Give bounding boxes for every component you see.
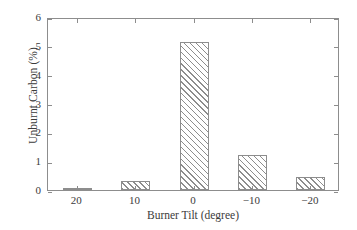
y-tick-mark — [48, 163, 52, 164]
y-tick-mark — [48, 134, 52, 135]
y-tick-label: 2 — [26, 127, 41, 138]
y-tick-mark — [48, 192, 52, 193]
x-axis-title: Burner Tilt (degree) — [47, 209, 339, 221]
x-tick-mark — [77, 186, 78, 190]
x-tick-label: 10 — [129, 194, 140, 207]
y-tick-mark-right — [334, 192, 338, 193]
y-tick-mark-right — [334, 47, 338, 48]
x-tick-label: 0 — [190, 194, 196, 207]
x-tick-label: 20 — [71, 194, 82, 207]
y-tick-mark — [48, 105, 52, 106]
y-tick-mark — [48, 47, 52, 48]
y-tick-label: 4 — [26, 70, 41, 81]
y-tick-mark — [48, 19, 52, 20]
x-tick-mark-top — [252, 19, 253, 23]
x-tick-mark — [310, 186, 311, 190]
y-tick-label: 1 — [26, 156, 41, 167]
y-tick-label: 3 — [26, 99, 41, 110]
y-tick-label: 5 — [26, 41, 41, 52]
x-tick-label: −10 — [243, 194, 260, 207]
y-tick-mark — [48, 76, 52, 77]
y-tick-mark-right — [334, 163, 338, 164]
x-tick-mark — [194, 186, 195, 190]
y-tick-label: 0 — [26, 185, 41, 196]
y-tick-mark-right — [334, 105, 338, 106]
bar — [180, 42, 209, 190]
x-tick-mark — [252, 186, 253, 190]
x-axis-tick-labels: 20100−10−20 — [47, 194, 339, 210]
x-tick-mark-top — [77, 19, 78, 23]
y-tick-mark-right — [334, 134, 338, 135]
chart-figure: Unburnt Carbon (%) 0123456 20100−10−20 B… — [0, 0, 357, 230]
bar — [238, 155, 267, 190]
y-tick-label: 6 — [26, 12, 41, 23]
y-axis-tick-labels: 0123456 — [26, 0, 41, 230]
x-tick-mark-top — [310, 19, 311, 23]
x-tick-mark-top — [135, 19, 136, 23]
plot-area — [47, 18, 339, 191]
x-tick-mark-top — [194, 19, 195, 23]
y-tick-mark-right — [334, 76, 338, 77]
x-tick-mark — [135, 186, 136, 190]
y-tick-mark-right — [334, 19, 338, 20]
x-tick-label: −20 — [301, 194, 318, 207]
